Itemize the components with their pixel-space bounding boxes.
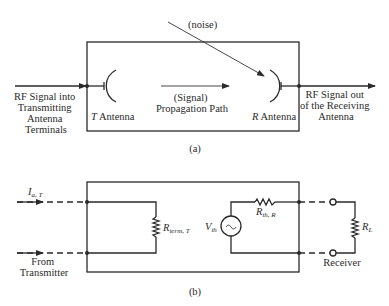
- propagation-label: (Signal) Propagation Path: [156, 92, 229, 114]
- thevenin-voltage-label: Vth: [205, 221, 217, 234]
- term-resistor-icon: [153, 217, 159, 237]
- output-label: RF Signal out of the Receiving Antenna: [300, 89, 372, 122]
- current-label: Ia, T: [27, 186, 44, 199]
- r-antenna-dish-icon: [270, 70, 280, 102]
- caption-b: (b): [189, 286, 202, 298]
- thevenin-resistor-icon: [255, 199, 275, 205]
- input-label: RF Signal into Transmitting Antenna Term…: [14, 91, 78, 135]
- sine-wave-icon: [226, 225, 236, 229]
- input-junction-dot: [85, 84, 89, 88]
- r-antenna-label: R Antenna: [251, 111, 296, 122]
- term-bottom-wire: [87, 237, 156, 253]
- term-top-wire: [87, 202, 156, 217]
- receiver-top-terminal: [330, 199, 336, 205]
- t-antenna-label: T Antenna: [91, 111, 135, 122]
- load-resistor-label: RL: [361, 221, 372, 234]
- noise-arrow: [168, 22, 264, 76]
- equivalent-circuit-box: [87, 182, 299, 272]
- t-antenna-dish-icon: [106, 70, 116, 102]
- load-top-wire: [336, 202, 355, 218]
- receiver-bottom-terminal: [330, 250, 336, 256]
- receiver-label: Receiver: [323, 257, 361, 268]
- source-label: From Transmitter: [20, 256, 69, 278]
- caption-a: (a): [189, 143, 201, 155]
- part-b: Ia, T From Transmitter Rterm, T Rth, R V…: [17, 182, 372, 298]
- term-resistor-label: Rterm, T: [162, 222, 191, 235]
- load-resistor-icon: [352, 218, 358, 238]
- part-a: RF Signal into Transmitting Antenna Term…: [14, 19, 375, 155]
- thevenin-resistor-label: Rth, R: [255, 206, 276, 219]
- load-bottom-wire: [336, 238, 355, 253]
- antenna-system-diagram: RF Signal into Transmitting Antenna Term…: [0, 0, 389, 306]
- noise-label: (noise): [188, 19, 218, 31]
- ac-source-icon: [221, 216, 241, 236]
- thevenin-top-left-wire: [231, 202, 255, 216]
- thevenin-bottom-wire: [231, 236, 299, 253]
